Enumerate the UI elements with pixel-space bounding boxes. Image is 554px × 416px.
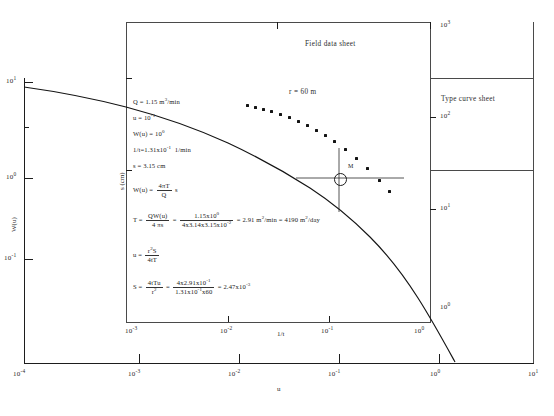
inner-right-border (430, 22, 431, 322)
outer-ytick (24, 178, 33, 179)
ann-eq-u: u = r2S 4tT (133, 247, 161, 264)
outer-xtick (239, 354, 240, 363)
fraction-4piT-over-Q: 4πT Q (157, 182, 172, 199)
outer-xtick (139, 354, 140, 363)
inner-top-border (126, 22, 431, 23)
inner-xtick (329, 316, 330, 322)
ann-discharge: Q = 1.15 m3/min (133, 99, 180, 106)
data-point (288, 116, 291, 119)
inner-top-tick (277, 22, 278, 29)
outer-right-border (533, 22, 534, 363)
field-data-sheet-label: Field data sheet (305, 40, 356, 48)
typecurve-box-top (430, 78, 534, 79)
data-point (344, 148, 347, 151)
inner-left-border (126, 22, 127, 322)
outer-xtick (339, 354, 340, 363)
inner-x-axis-label: 1/t (277, 330, 284, 338)
data-point (333, 140, 336, 143)
ann-invt-value: 1/t=1.31x10-1 1/min (133, 147, 191, 154)
fraction-4tTu-over-r2: 4tTu r2 (146, 279, 163, 296)
ann-eq-wu: W(u) = 4πT Q s (133, 182, 178, 199)
fraction-S-numeric: 4x2.91x10-1 1.31x10-1x60 (173, 279, 214, 296)
outer-ytick (24, 127, 29, 128)
outer-y-axis-label: W(u) (10, 217, 18, 232)
inner-ytick (126, 170, 132, 171)
ann-eq-transmissivity: T = QW(u) 4 πs = 1.15x100 4x3.14x3.15x10… (133, 212, 320, 229)
outer-xtick-label: 10-4 (13, 371, 25, 378)
outer-xtick-label: 10-2 (228, 371, 240, 378)
inner-ytick-label: 100 (440, 304, 450, 311)
outer-x-axis (24, 363, 534, 364)
data-point (297, 120, 300, 123)
outer-y-axis (24, 78, 25, 363)
outer-ytick-label: 101 (6, 78, 16, 85)
radius-label: r = 60 m (289, 88, 316, 96)
fraction-T-numeric: 1.15x100 4x3.14x3.15x10-2 (180, 212, 233, 229)
outer-ytick-label: 10-1 (4, 255, 16, 262)
fraction-QWu-over-4pis: QW(u) 4 πs (146, 212, 169, 229)
match-point-label: M (348, 163, 353, 169)
data-point (279, 113, 282, 116)
outer-xtick-label: 10-1 (328, 371, 340, 378)
plot-overlay (0, 0, 554, 416)
inner-xtick (228, 316, 229, 322)
outer-ytick (24, 259, 33, 260)
data-point (270, 110, 273, 113)
inner-xtick-label: 100 (414, 328, 424, 335)
data-point (324, 134, 327, 137)
ann-eq-storativity: S = 4tTu r2 = 4x2.91x10-1 1.31x10-1x60 =… (133, 279, 250, 296)
data-point (254, 106, 257, 109)
data-point (355, 157, 358, 160)
match-point-marker[interactable] (334, 173, 347, 186)
outer-xtick-label: 100 (430, 371, 440, 378)
data-point (262, 108, 265, 111)
inner-ytick (430, 209, 436, 210)
ann-wu-value: W(u) = 100 (133, 131, 165, 138)
type-curve-sheet-label: Type curve sheet (441, 95, 495, 103)
inner-y-axis-label: s (cm) (118, 172, 126, 190)
data-point (246, 104, 249, 107)
inner-top-tick (430, 22, 431, 29)
ann-u-value: u = 10-1 (133, 115, 155, 122)
outer-xtick-label: 101 (528, 371, 538, 378)
figure-root: 10-4 10-3 10-2 10-1 100 101 101 100 10-1… (0, 0, 554, 416)
inner-ytick-label: 102 (440, 113, 450, 120)
inner-xtick-label: 10-3 (125, 328, 137, 335)
outer-x-axis-label: u (277, 385, 281, 393)
inner-xtick-label: 10-2 (220, 328, 232, 335)
inner-ytick (126, 78, 132, 79)
inner-hrule-1e1 (430, 170, 534, 171)
inner-xtick-label: 10-1 (321, 328, 333, 335)
inner-bottom-border (126, 322, 431, 323)
inner-ytick-label: 103 (440, 22, 450, 29)
outer-xtick (439, 354, 440, 363)
outer-ytick (24, 82, 33, 83)
inner-ytick (430, 117, 436, 118)
data-point (378, 179, 381, 182)
fraction-r2S-over-4tT: r2S 4tT (145, 247, 159, 264)
inner-ytick-label: 101 (440, 205, 450, 212)
data-point (315, 129, 318, 132)
data-point (306, 124, 309, 127)
ann-s-value: s = 3.15 cm (133, 163, 165, 170)
outer-ytick-label: 100 (6, 174, 16, 181)
data-point (366, 167, 369, 170)
data-point (388, 190, 391, 193)
outer-xtick-label: 10-3 (128, 371, 140, 378)
